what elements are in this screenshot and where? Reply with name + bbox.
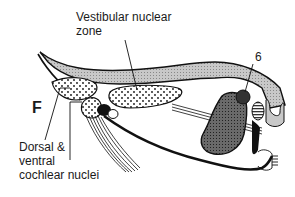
dark-tract xyxy=(252,120,260,154)
small-open-nucleus xyxy=(108,110,118,119)
nerve-fibers xyxy=(86,116,140,172)
panel-letter: F xyxy=(32,101,42,115)
vestibular-nuclear-zone xyxy=(109,85,182,108)
vestibular-label-line1: Vestibular nuclear xyxy=(76,10,171,24)
striped-structure xyxy=(252,102,264,120)
nucleus-6-label: 6 xyxy=(255,50,262,64)
cochlear-label-line3: cochlear nuclei xyxy=(19,168,99,182)
cochlear-label-line1: Dorsal & xyxy=(19,140,65,154)
dorsal-cochlear-nucleus xyxy=(52,78,97,100)
cochlear-label-line2: ventral xyxy=(19,154,55,168)
nucleus-6 xyxy=(236,90,250,104)
vestibular-label-line2: zone xyxy=(76,24,102,38)
anatomy-diagram: Vestibular nuclear zone 6 F Dorsal & ven… xyxy=(0,0,295,197)
